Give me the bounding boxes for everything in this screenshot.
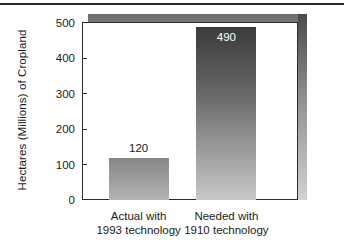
x-category-label-line: 1993 technology — [96, 224, 180, 238]
bar-value-label-1: 120 — [129, 142, 148, 154]
y-tick-label: 300 — [0, 88, 82, 100]
x-category-label-line: Needed with — [184, 210, 268, 224]
y-axis-title: Hectares (Millions) of Cropland — [16, 12, 28, 208]
y-tick-label: 400 — [0, 52, 82, 64]
top-divider-rule — [0, 3, 344, 5]
bar-chart-figure: Hectares (Millions) of Cropland 01002003… — [0, 0, 344, 240]
plot-shadow-right — [298, 14, 307, 200]
y-tick-label: 500 — [0, 17, 82, 29]
x-category-label-line: Actual with — [96, 210, 180, 224]
plot-area — [83, 23, 297, 200]
x-category-label-1: Actual with1993 technology — [96, 210, 180, 237]
x-category-label-line: 1910 technology — [184, 224, 268, 238]
y-tick-label: 200 — [0, 123, 82, 135]
bar-2 — [196, 27, 256, 200]
x-category-label-2: Needed with1910 technology — [184, 210, 268, 237]
y-tick-label: 100 — [0, 159, 82, 171]
bar-1 — [109, 158, 169, 200]
y-tick-label: 0 — [0, 194, 82, 206]
bar-value-label-2: 490 — [217, 31, 236, 43]
